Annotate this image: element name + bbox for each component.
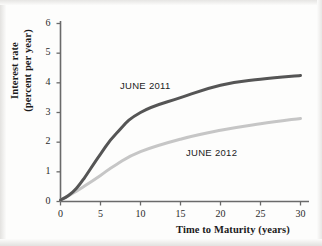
y-tick-label-4: 4 xyxy=(37,76,51,87)
y-tick-label-6: 6 xyxy=(37,17,51,28)
y-axis-title: Interest rate (percent per year) xyxy=(9,6,34,136)
x-tick-label-5: 5 xyxy=(93,208,109,219)
y-tick-label-0: 0 xyxy=(37,195,51,206)
y-axis-title-line1: Interest rate xyxy=(9,6,22,136)
y-tick-label-2: 2 xyxy=(37,135,51,146)
x-tick-label-20: 20 xyxy=(213,208,229,219)
x-tick-label-25: 25 xyxy=(253,208,269,219)
series-annotation-june-2011: JUNE 2011 xyxy=(120,80,171,91)
series-annotation-june-2012: JUNE 2012 xyxy=(186,147,237,158)
x-axis-title: Time to Maturity (years) xyxy=(176,224,290,235)
y-axis-title-line2: (percent per year) xyxy=(21,6,34,136)
chart-figure: 0123456 051015202530 Interest rate (perc… xyxy=(0,0,322,246)
x-tick-label-30: 30 xyxy=(293,208,309,219)
y-tick-label-5: 5 xyxy=(37,46,51,57)
y-tick-label-3: 3 xyxy=(37,106,51,117)
x-tick-label-0: 0 xyxy=(53,208,69,219)
x-tick-label-10: 10 xyxy=(133,208,149,219)
plot-area xyxy=(0,0,322,246)
x-tick-label-15: 15 xyxy=(173,208,189,219)
y-tick-label-1: 1 xyxy=(37,165,51,176)
